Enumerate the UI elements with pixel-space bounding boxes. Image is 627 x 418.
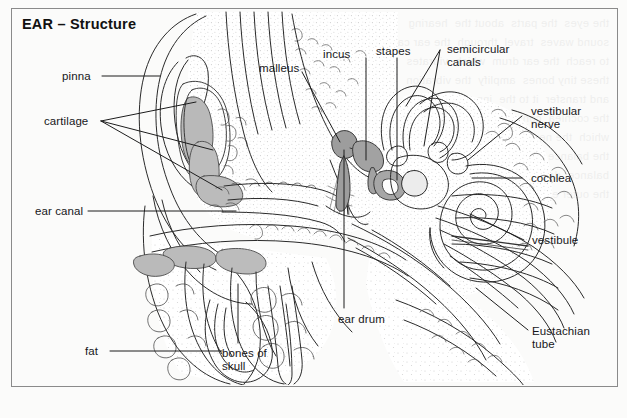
label-malleus: malleus (259, 62, 299, 75)
label-pinna: pinna (62, 70, 91, 83)
label-vestibular-nerve: vestibular nerve (531, 105, 581, 131)
label-stapes: stapes (376, 45, 410, 58)
label-incus: incus (323, 48, 350, 61)
label-ear-canal: ear canal (35, 205, 83, 218)
label-vestibule: vestibule (532, 234, 578, 247)
label-cartilage: cartilage (44, 115, 88, 128)
label-bones-of-skull: bones of skull (222, 347, 267, 373)
label-cochlea: cochlea (531, 172, 571, 185)
label-ear-drum: ear drum (338, 313, 385, 326)
label-eustachian-tube: Eustachian tube (532, 325, 590, 351)
label-semicircular-canals: semicircular canals (447, 43, 510, 69)
page-title: EAR – Structure (22, 16, 136, 32)
label-fat: fat (85, 345, 98, 358)
